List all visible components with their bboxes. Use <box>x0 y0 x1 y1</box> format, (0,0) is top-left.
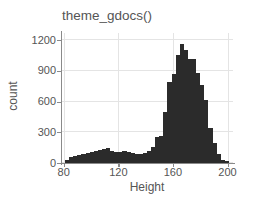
y-tick-mark-600 <box>57 102 61 103</box>
histogram-chart: theme_gdocs() 03006009001200 80120160200… <box>0 0 269 212</box>
y-tick-mark-0 <box>57 163 61 164</box>
x-tick-label-200: 200 <box>208 166 248 178</box>
x-axis-line <box>59 163 235 164</box>
x-tick-label-120: 120 <box>98 166 138 178</box>
y-tick-mark-1200 <box>57 40 61 41</box>
x-tick-mark-160 <box>173 163 174 167</box>
y-tick-label-1200: 1200 <box>22 35 56 46</box>
chart-title: theme_gdocs() <box>62 8 242 23</box>
y-axis-title: count <box>6 61 20 131</box>
x-axis-title: Height <box>61 180 233 194</box>
y-tick-label-900: 900 <box>22 65 56 76</box>
x-tick-label-160: 160 <box>153 166 193 178</box>
histogram-bars <box>61 33 233 163</box>
plot-panel <box>61 33 233 163</box>
y-tick-label-300: 300 <box>22 127 56 138</box>
y-tick-label-600: 600 <box>22 96 56 107</box>
x-tick-label-80: 80 <box>44 166 84 178</box>
y-tick-mark-300 <box>57 132 61 133</box>
y-axis-line <box>61 31 62 165</box>
y-tick-mark-900 <box>57 71 61 72</box>
x-tick-mark-120 <box>118 163 119 167</box>
x-tick-mark-80 <box>64 163 65 167</box>
x-tick-mark-200 <box>228 163 229 167</box>
